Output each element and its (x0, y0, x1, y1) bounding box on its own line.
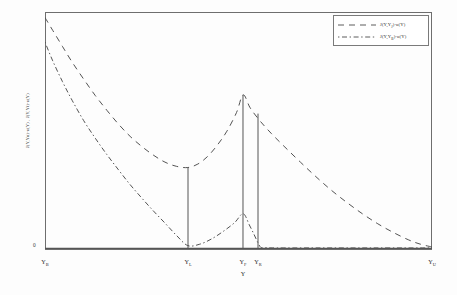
legend-entry-0: J(Y,YJ)-u(Y) (337, 19, 425, 31)
curve-1 (45, 42, 432, 248)
x-tick-text: YF (240, 258, 247, 265)
x-tick-text: YB (41, 258, 48, 265)
legend-entry-1: J(Y,YB)-u(Y) (337, 31, 425, 43)
legend-swatch-long-dash (337, 21, 377, 29)
x-tick-YF: YF (240, 258, 247, 267)
chart-figure: J(Y,Yʙ)-u(Y) , J(Y,Yʇ)-u(Y) 0 YBYLYFYRYU… (0, 0, 457, 295)
legend-label-0: J(Y,YJ)-u(Y) (380, 22, 405, 29)
x-axis-label: Y (241, 270, 245, 277)
legend-swatch-dash-dot (337, 33, 377, 41)
annotation-vertical-lines (188, 95, 258, 249)
x-tick-YU: YU (428, 258, 436, 267)
plot-canvas (45, 12, 432, 250)
x-tick-text: YR (254, 258, 261, 265)
legend-label-1: J(Y,YB)-u(Y) (380, 34, 406, 41)
x-tick-text: YU (428, 258, 436, 265)
x-tick-YR: YR (254, 258, 261, 267)
x-tick-YB: YB (41, 258, 48, 267)
y-axis-label: J(Y,Yʙ)-u(Y) , J(Y,Yʇ)-u(Y) (25, 31, 30, 211)
x-tick-text: YL (184, 258, 191, 265)
x-tick-YL: YL (184, 258, 191, 267)
chart-legend: J(Y,YJ)-u(Y) J(Y,YB)-u(Y) (333, 15, 429, 46)
data-curves (45, 18, 432, 248)
curve-0 (45, 18, 432, 247)
y-axis-zero-tick: 0 (33, 242, 36, 248)
